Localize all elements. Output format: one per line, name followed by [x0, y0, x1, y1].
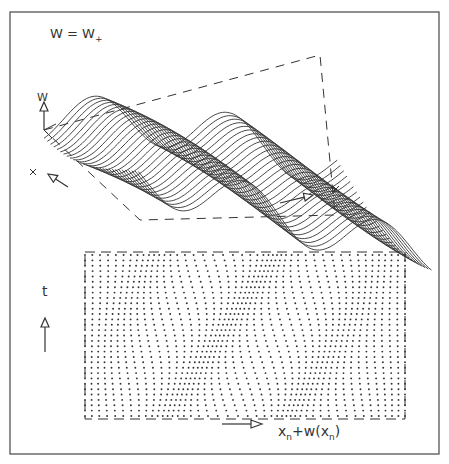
top-panel-surface-plot: W = W+ W — [30, 26, 432, 270]
figure-frame — [10, 12, 439, 454]
panel-title: W = W+ — [50, 26, 102, 44]
surface-line — [106, 145, 399, 249]
surface-line — [138, 172, 431, 271]
w-axis-label: W — [37, 91, 48, 104]
arrow-head-icon — [251, 420, 262, 428]
bottom-panel-lattice-plot: t xn+w(xn) — [41, 252, 406, 442]
dot-lattice — [84, 254, 406, 417]
surface-line — [51, 100, 344, 187]
t-axis-label: t — [42, 283, 48, 299]
surface-line — [122, 162, 415, 262]
x-axis-label: xn+w(xn) — [278, 423, 340, 442]
figure: W = W+ W t xn+w(xn) — [0, 0, 449, 464]
axis-arrows — [41, 318, 262, 428]
surface-line — [109, 148, 402, 252]
arrow-head-icon — [41, 318, 49, 327]
arrow-head-icon — [48, 174, 58, 182]
tick-mark — [30, 169, 36, 175]
wave-surface — [44, 96, 432, 270]
dashed-lattice-border — [85, 252, 405, 419]
surface-line — [116, 155, 409, 258]
